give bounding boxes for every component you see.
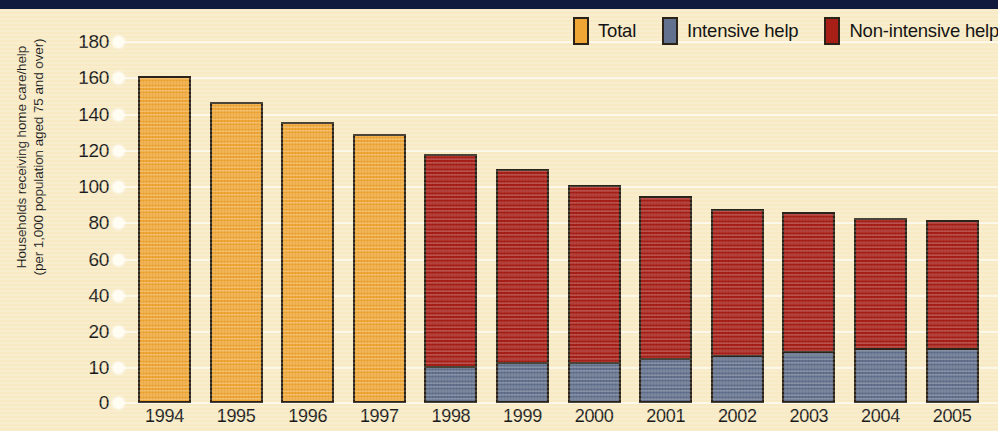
bar-2005 [926, 220, 979, 403]
bar-2003 [782, 212, 835, 403]
bar-segment-non-intensive-help [713, 211, 762, 355]
x-tick-label-1997: 1997 [347, 406, 412, 427]
x-tick-label-1994: 1994 [132, 406, 197, 427]
plot-area: 1994199519961997199819992000200120022003… [0, 0, 998, 431]
legend-label-total: Total [598, 20, 636, 42]
bar-2001 [639, 196, 692, 403]
bar-segment-non-intensive-help [570, 187, 619, 362]
x-tick-label-2001: 2001 [633, 406, 698, 427]
bar-segment-intensive-help [641, 358, 690, 401]
x-tick-label-1998: 1998 [418, 406, 483, 427]
x-tick-label-1999: 1999 [490, 406, 555, 427]
x-tick-label-2005: 2005 [920, 406, 985, 427]
bar-1997 [353, 134, 406, 403]
bar-segment-intensive-help [570, 362, 619, 401]
x-tick-label-2004: 2004 [848, 406, 913, 427]
bar-segment-non-intensive-help [426, 156, 475, 365]
bar-segment-intensive-help [784, 351, 833, 401]
x-tick-label-2002: 2002 [705, 406, 770, 427]
x-tick-label-2003: 2003 [776, 406, 841, 427]
bar-segment-total [355, 136, 404, 401]
bar-segment-non-intensive-help [784, 214, 833, 351]
bar-segment-total [212, 104, 261, 401]
legend-item-intensive: Intensive help [662, 17, 798, 45]
legend-label-intensive: Intensive help [687, 20, 798, 42]
legend-swatch-nonintensive [824, 17, 840, 45]
chart-legend: TotalIntensive helpNon-intensive help [573, 14, 998, 48]
legend-item-nonintensive: Non-intensive help [824, 17, 998, 45]
bar-segment-intensive-help [928, 348, 977, 401]
bar-segment-non-intensive-help [856, 220, 905, 348]
chart-figure: Households receiving home care/help (per… [0, 0, 998, 431]
legend-swatch-intensive [662, 17, 678, 45]
bar-2004 [854, 218, 907, 403]
bar-1999 [496, 169, 549, 403]
bar-segment-intensive-help [426, 366, 475, 402]
bar-1994 [138, 76, 191, 403]
legend-label-nonintensive: Non-intensive help [849, 20, 998, 42]
x-tick-label-2000: 2000 [562, 406, 627, 427]
legend-item-total: Total [573, 17, 636, 45]
bar-1996 [281, 122, 334, 403]
bar-segment-intensive-help [856, 348, 905, 401]
x-tick-label-1996: 1996 [275, 406, 340, 427]
bar-segment-intensive-help [498, 362, 547, 401]
bar-segment-total [140, 78, 189, 401]
bar-segment-non-intensive-help [641, 198, 690, 358]
bar-segment-intensive-help [713, 355, 762, 401]
bar-segment-non-intensive-help [928, 222, 977, 348]
bar-segment-total [283, 124, 332, 401]
bar-2000 [568, 185, 621, 403]
bar-segment-non-intensive-help [498, 171, 547, 362]
legend-swatch-total [573, 17, 589, 45]
bar-2002 [711, 209, 764, 403]
x-tick-label-1995: 1995 [204, 406, 269, 427]
bar-1998 [424, 154, 477, 403]
page-top-band [0, 0, 998, 9]
bar-1995 [210, 102, 263, 403]
